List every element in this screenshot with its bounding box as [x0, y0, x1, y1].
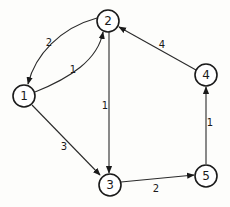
edge-weight-label: 4	[159, 39, 165, 50]
edge-weight-label: 3	[61, 141, 67, 152]
edge-weight-label: 2	[46, 37, 52, 48]
edge-weight-label: 1	[207, 117, 213, 128]
node-3: 3	[99, 174, 121, 196]
node-2: 2	[97, 10, 119, 32]
edge-4-to-2: 4	[119, 27, 196, 70]
edge-weight-label: 2	[153, 183, 159, 194]
edge-3-to-5: 2	[121, 175, 194, 194]
node-label: 3	[106, 178, 114, 192]
node-1: 1	[13, 85, 35, 107]
node-5: 5	[195, 165, 217, 187]
node-4: 4	[195, 64, 217, 86]
edge-weight-label: 1	[102, 100, 108, 111]
edge-5-to-4: 1	[206, 87, 213, 164]
node-label: 2	[104, 14, 112, 28]
node-label: 1	[20, 89, 28, 103]
edge-2-to-3: 1	[102, 32, 109, 173]
node-label: 4	[202, 68, 210, 82]
edge-1-to-3: 3	[32, 105, 100, 175]
edge-weight-label: 1	[70, 64, 76, 75]
edge-2-to-1: 2	[28, 18, 97, 84]
graph-canvas: 2 1 3 1 2 1 4 1 2 3 4	[0, 0, 230, 207]
node-label: 5	[202, 169, 210, 183]
